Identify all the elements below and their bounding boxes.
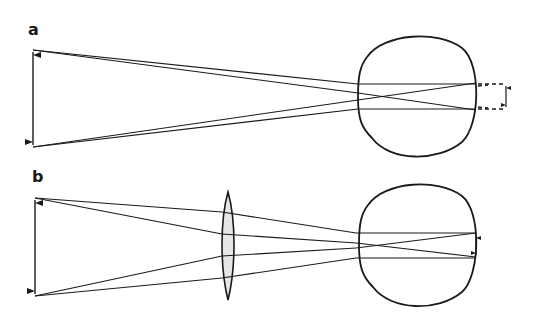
optics-diagram <box>0 0 536 315</box>
light-rays <box>33 50 476 147</box>
converging-lens <box>222 192 234 300</box>
panel-a <box>33 36 506 156</box>
eyeball <box>358 36 476 156</box>
panel-b <box>35 184 476 306</box>
virtual-image <box>478 84 504 109</box>
light-rays <box>35 198 476 296</box>
